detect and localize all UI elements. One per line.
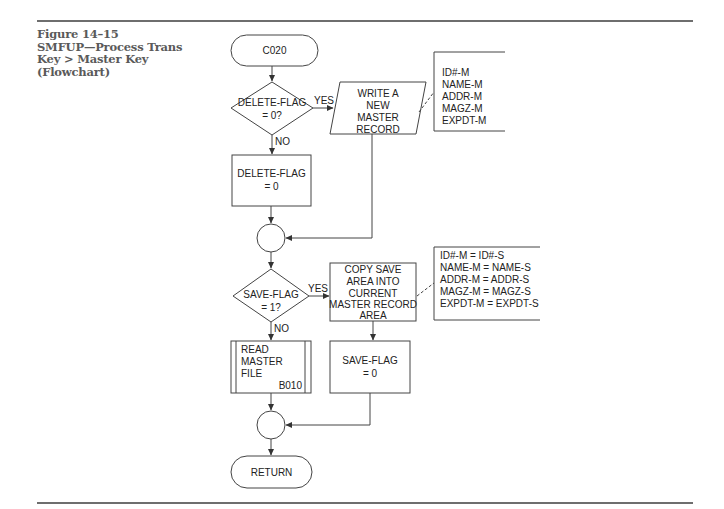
predefined-label: FILE (241, 368, 262, 379)
io-label: RECORD (356, 124, 399, 135)
annotation-line: ID#-M (442, 67, 469, 78)
no-label: NO (275, 136, 290, 147)
annotation-line: MAGZ-M (442, 103, 483, 114)
io-label: WRITE A (357, 88, 398, 99)
process-label: COPY SAVE (345, 264, 402, 275)
annotation-field-assignments: ID#-M = ID#-S NAME-M = NAME-S ADDR-M = A… (417, 247, 540, 320)
process-label: DELETE-FLAG (237, 168, 306, 179)
decision-label: DELETE-FLAG (238, 97, 307, 108)
annotation-line: ADDR-M (442, 91, 482, 102)
end-terminal-label: RETURN (251, 467, 293, 478)
predefined-label: READ (241, 344, 269, 355)
io-label: NEW (366, 100, 390, 111)
end-terminal: RETURN (231, 456, 312, 488)
connector-circle (257, 224, 285, 252)
io-write-master-record: WRITE A NEW MASTER RECORD (330, 82, 426, 135)
process-label: = 0 (363, 368, 378, 379)
predefined-label: MASTER (241, 356, 283, 367)
process-label: SAVE-FLAG (342, 355, 398, 366)
no-label: NO (274, 323, 289, 334)
process-copy-save-area: COPY SAVE AREA INTO CURRENT MASTER RECOR… (329, 263, 417, 321)
annotation-line: MAGZ-M = MAGZ-S (440, 286, 531, 297)
annotation-line: ID#-M = ID#-S (440, 250, 505, 261)
module-ref-label: B010 (279, 380, 303, 391)
process-label: AREA INTO (346, 276, 399, 287)
connector-circle (257, 411, 285, 439)
process-label: = 0 (264, 181, 279, 192)
decision-label: SAVE-FLAG (243, 289, 299, 300)
process-label: CURRENT (349, 288, 398, 299)
decision-label: = 0? (262, 110, 282, 121)
io-label: MASTER (357, 112, 399, 123)
decision-save-flag: SAVE-FLAG = 1? (233, 269, 309, 322)
annotation-master-fields: ID#-M NAME-M ADDR-M MAGZ-M EXPDT-M (419, 52, 505, 131)
start-terminal: C020 (231, 35, 318, 66)
yes-label: YES (314, 95, 334, 106)
annotation-line: NAME-M (442, 79, 483, 90)
process-delete-flag-reset: DELETE-FLAG = 0 (232, 155, 311, 206)
yes-label: YES (308, 283, 328, 294)
process-save-flag-reset: SAVE-FLAG = 0 (330, 341, 410, 393)
merge-arrow (286, 393, 370, 425)
predefined-read-master-file: READ MASTER FILE B010 (231, 341, 311, 393)
decision-label: = 1? (261, 302, 281, 313)
annotation-line: ADDR-M = ADDR-S (440, 274, 530, 285)
flowchart: C020 DELETE-FLAG = 0? YES NO WRITE A NEW… (0, 0, 724, 509)
process-label: AREA (359, 310, 387, 321)
annotation-line: NAME-M = NAME-S (440, 262, 531, 273)
annotation-line: EXPDT-M = EXPDT-S (440, 298, 539, 309)
start-terminal-label: C020 (263, 45, 287, 56)
process-label: MASTER RECORD (329, 299, 417, 310)
decision-delete-flag: DELETE-FLAG = 0? (231, 82, 313, 135)
annotation-line: EXPDT-M (442, 115, 486, 126)
